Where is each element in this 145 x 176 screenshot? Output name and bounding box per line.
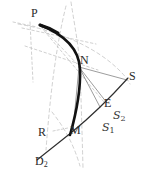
dashed-arc-r-through-m [52,112,80,166]
dashed-arc-p-to-s [18,24,130,84]
script-label-s2: S2 [113,110,126,123]
ray-n-to-s [79,67,127,80]
dashed-tick-r-pointer [53,128,68,131]
dashed-quad-left-edge [30,22,33,82]
point-label-d2: D2 [35,155,48,169]
point-label-n: N [80,54,89,66]
script-label-s1-subscript: 1 [110,126,115,135]
point-label-p: P [31,7,38,19]
point-label-d2-letter: D [35,154,44,168]
point-label-d2-subscript: 2 [44,160,48,169]
geometric-figure: P N S E M R D2 S2 S1 [0,0,145,176]
dashed-tick-top-left [13,22,37,27]
script-label-s1-letter: S [102,121,110,134]
point-label-m: M [70,124,81,136]
ray-n-to-e [79,67,107,103]
ray-n-to-e-alt [79,67,100,107]
curve-p-n-m [40,25,80,135]
script-label-s2-letter: S [113,109,121,122]
point-label-r: R [38,126,46,138]
construction-layer [13,2,130,168]
script-label-s2-subscript: 2 [121,114,126,123]
dashed-chord-p-to-e [41,27,104,102]
figure-canvas [0,0,145,176]
script-label-s1: S1 [102,122,115,135]
point-label-e: E [104,97,111,109]
point-label-s: S [129,70,136,82]
